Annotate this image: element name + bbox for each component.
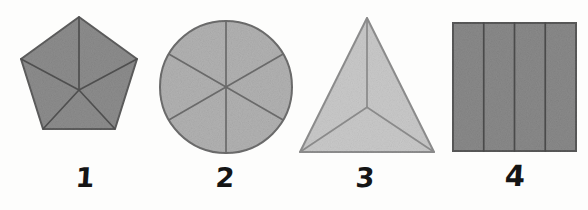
label-glyph: 4 <box>504 159 527 193</box>
pentagon-svg <box>18 14 140 156</box>
figure-label-2: 2 <box>194 164 256 191</box>
figure-square <box>444 14 580 156</box>
figure-label-3: 3 <box>334 164 396 191</box>
worksheet-canvas: 1 2 <box>0 0 588 210</box>
label-glyph: 3 <box>355 162 376 193</box>
label-glyph: 2 <box>215 162 236 193</box>
figure-label-1: 1 <box>54 164 116 191</box>
label-glyph: 1 <box>75 162 96 193</box>
figure-pentagon <box>18 14 140 156</box>
circle-svg <box>156 14 296 156</box>
figure-circle <box>156 14 296 156</box>
figure-triangle <box>296 14 438 156</box>
triangle-svg <box>296 14 438 156</box>
square-svg <box>444 14 580 156</box>
figure-label-4: 4 <box>484 162 546 191</box>
